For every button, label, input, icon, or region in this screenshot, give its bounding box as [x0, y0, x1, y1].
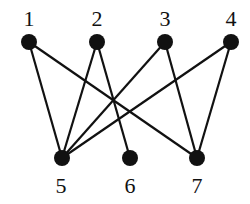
- edges-group: [29, 42, 231, 158]
- nodes-group: [21, 34, 239, 166]
- node-label-1: 1: [24, 6, 35, 31]
- labels-group: 1234567: [24, 6, 237, 198]
- node-1: [21, 34, 37, 50]
- node-5: [54, 150, 70, 166]
- node-6: [122, 150, 138, 166]
- node-4: [223, 34, 239, 50]
- node-label-6: 6: [125, 173, 136, 198]
- node-label-4: 4: [226, 6, 237, 31]
- edge-4-5: [62, 42, 231, 158]
- node-label-5: 5: [56, 173, 67, 198]
- node-label-2: 2: [92, 6, 103, 31]
- node-3: [157, 34, 173, 50]
- edge-4-7: [197, 42, 231, 158]
- node-2: [89, 34, 105, 50]
- edge-1-5: [29, 42, 62, 158]
- edge-2-5: [62, 42, 97, 158]
- edge-3-7: [165, 42, 197, 158]
- node-label-3: 3: [160, 6, 171, 31]
- node-7: [189, 150, 205, 166]
- node-label-7: 7: [192, 173, 203, 198]
- edge-3-5: [62, 42, 165, 158]
- bipartite-graph: 1234567: [0, 0, 250, 204]
